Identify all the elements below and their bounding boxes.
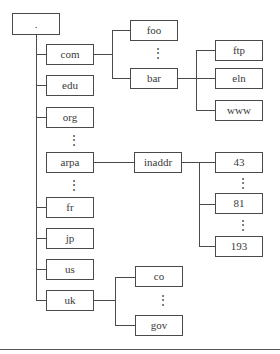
- node-label: fr: [66, 202, 73, 213]
- node-43: 43: [215, 152, 263, 173]
- connector-line: [36, 300, 46, 301]
- connector-line: [196, 50, 197, 110]
- node-label: inaddr: [144, 157, 172, 168]
- connector-line: [36, 238, 46, 239]
- connector-line: [94, 54, 112, 55]
- connector-line: [36, 54, 46, 55]
- node-label: 43: [234, 157, 245, 168]
- node-label: arpa: [61, 157, 80, 168]
- connector-line: [115, 325, 135, 326]
- connector-line: [115, 277, 116, 326]
- node-inaddr: inaddr: [134, 152, 182, 173]
- node-label: foo: [147, 25, 162, 36]
- connector-line: [36, 35, 37, 300]
- connector-line: [178, 78, 196, 79]
- node-label: uk: [65, 295, 76, 306]
- node-label: jp: [66, 233, 75, 244]
- node-label: 81: [234, 198, 245, 209]
- node-label: 193: [231, 241, 248, 252]
- ellipsis-icon: ⋮: [68, 134, 72, 146]
- node-label: www: [227, 105, 251, 116]
- node-edu: edu: [46, 75, 94, 96]
- node-label: eln: [232, 73, 245, 84]
- node-org: org: [46, 107, 94, 128]
- node-label: com: [61, 49, 80, 60]
- connector-line: [36, 269, 46, 270]
- node-label: bar: [147, 73, 161, 84]
- node-gov: gov: [135, 315, 183, 336]
- node-foo: foo: [130, 20, 178, 41]
- ellipsis-icon: ⋮: [157, 294, 161, 306]
- connector-line: [196, 78, 215, 79]
- node-label: .: [35, 19, 38, 30]
- connector-line: [94, 162, 134, 163]
- node-193: 193: [215, 236, 263, 257]
- connector-line: [196, 50, 215, 51]
- node-root: .: [12, 13, 60, 35]
- node-uk: uk: [46, 290, 94, 311]
- connector-line: [36, 117, 46, 118]
- ellipsis-icon: ⋮: [68, 179, 72, 191]
- node-www: www: [215, 100, 263, 121]
- node-label: gov: [151, 320, 168, 331]
- node-co: co: [135, 266, 183, 287]
- connector-line: [199, 246, 215, 247]
- node-us: us: [46, 259, 94, 280]
- node-eln: eln: [215, 68, 263, 89]
- node-bar: bar: [130, 68, 178, 89]
- node-fr: fr: [46, 197, 94, 218]
- connector-line: [112, 30, 113, 79]
- node-jp: jp: [46, 228, 94, 249]
- connector-line: [199, 204, 215, 205]
- node-com: com: [46, 44, 94, 65]
- connector-line: [94, 300, 115, 301]
- node-label: co: [154, 271, 164, 282]
- node-ftp: ftp: [215, 40, 263, 61]
- ellipsis-icon: ⋮: [237, 177, 241, 189]
- node-label: edu: [62, 80, 78, 91]
- node-label: ftp: [233, 45, 245, 56]
- ellipsis-icon: ⋮: [237, 219, 241, 231]
- bottom-divider: [0, 349, 280, 350]
- connector-line: [36, 207, 46, 208]
- connector-line: [196, 110, 215, 111]
- node-81: 81: [215, 193, 263, 214]
- ellipsis-icon: ⋮: [152, 47, 156, 59]
- node-arpa: arpa: [46, 152, 94, 173]
- connector-line: [112, 78, 130, 79]
- connector-line: [112, 30, 130, 31]
- connector-line: [115, 277, 135, 278]
- node-label: us: [65, 264, 75, 275]
- node-label: org: [63, 112, 77, 123]
- connector-line: [36, 85, 46, 86]
